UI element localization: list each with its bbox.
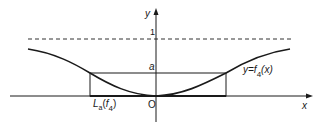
level-set-label: La(f4) bbox=[93, 98, 116, 113]
x-axis-arrow-icon bbox=[306, 94, 313, 99]
curve-label: y=f4(x) bbox=[242, 64, 273, 79]
tick-label-one: 1 bbox=[150, 27, 155, 37]
x-axis-label: x bbox=[301, 100, 308, 111]
diagram-canvas: y 1 a O x y=f4(x) La(f4) bbox=[0, 0, 324, 131]
y-axis-arrow-icon bbox=[154, 8, 159, 15]
tick-label-a: a bbox=[149, 61, 155, 72]
origin-label: O bbox=[148, 99, 156, 110]
y-axis-label: y bbox=[144, 8, 151, 19]
